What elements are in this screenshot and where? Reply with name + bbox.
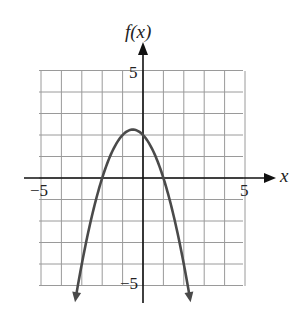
left-curve-arrow-icon: [72, 292, 81, 303]
y-axis-label: f(x): [125, 22, 151, 41]
y-axis-arrow-icon: [138, 42, 148, 55]
parabola-curve: [76, 130, 190, 299]
x-axis-label: x: [280, 166, 288, 185]
right-curve-arrow-icon: [184, 292, 193, 303]
x-max-tick-label: 5: [240, 182, 249, 199]
x-min-tick-label: −5: [30, 182, 48, 199]
y-min-tick-label: −5: [120, 275, 138, 292]
parabola-chart: [0, 0, 301, 316]
y-max-tick-label: 5: [129, 64, 138, 81]
x-axis-arrow-icon: [264, 173, 276, 183]
